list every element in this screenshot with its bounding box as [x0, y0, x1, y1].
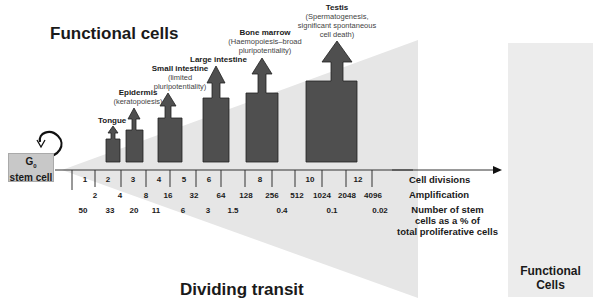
- percent-0-02: 0.02: [372, 206, 388, 215]
- cell-division-6: 6: [207, 175, 211, 184]
- amplification-4096: 4096: [364, 191, 382, 200]
- percent-0-4: 0.4: [276, 206, 287, 215]
- percent-20: 20: [130, 206, 139, 215]
- cell-division-1: 1: [83, 175, 87, 184]
- cell-division-2: 2: [106, 175, 110, 184]
- dividing-transit-title: Dividing transit: [180, 280, 304, 300]
- legend-amplification: Amplification: [409, 189, 469, 200]
- cell-division-8: 8: [258, 175, 262, 184]
- tissue-note-small-intestine-1: (limited: [140, 73, 220, 82]
- bar-bone-marrow: [246, 58, 278, 162]
- percent-6: 6: [181, 206, 185, 215]
- bar-tongue: [106, 126, 120, 162]
- arrowhead-icon: [493, 166, 502, 174]
- bar-epidermis: [126, 108, 143, 162]
- tissue-label-small-intestine: Small intestine: [140, 64, 220, 73]
- tissue-note-small-intestine-2: pluripotentiality): [140, 82, 220, 91]
- tissue-label-large-intestine: Large intestine: [190, 55, 247, 64]
- tissue-label-small-intestine-group: Small intestine (limited pluripotentiali…: [140, 64, 220, 91]
- functional-cells-box-label: Functional Cells: [508, 264, 593, 292]
- cell-division-12: 12: [354, 175, 363, 184]
- amplification-32: 32: [190, 191, 199, 200]
- amplification-256: 256: [265, 191, 278, 200]
- percent-50: 50: [79, 206, 88, 215]
- amplification-1024: 1024: [313, 191, 331, 200]
- tissue-label-testis: Testis: [287, 3, 387, 12]
- tissue-note-bone-marrow-2: pluripotentiality): [225, 46, 305, 55]
- percent-11: 11: [152, 206, 160, 215]
- amplification-16: 16: [164, 191, 173, 200]
- functional-cells-title: Functional cells: [50, 24, 178, 44]
- amplification-2: 2: [93, 191, 97, 200]
- bar-testis: [306, 41, 357, 162]
- tissue-note-epidermis: (keratopoiesis): [108, 97, 168, 106]
- stem-cell-subscript: 0: [33, 163, 36, 169]
- cell-division-10: 10: [306, 175, 315, 184]
- dividing-transit-wedge: [62, 40, 418, 298]
- tissue-note-testis-2: significant spontaneous: [287, 21, 387, 30]
- g0-stem-cell-box: G0 stem cell: [8, 153, 54, 182]
- legend-percent-group: Number of stem cells as a % of total pro…: [390, 204, 505, 237]
- tissue-label-testis-group: Testis (Spermatogenesis, significant spo…: [287, 3, 387, 39]
- percent-33: 33: [106, 206, 115, 215]
- tissue-note-testis-1: (Spermatogenesis,: [287, 12, 387, 21]
- tissue-label-tongue: Tongue: [98, 116, 126, 125]
- functional-cells-box-line-2: Cells: [508, 278, 593, 292]
- stem-cell-label: stem cell: [9, 172, 53, 183]
- amplification-2048: 2048: [338, 191, 356, 200]
- legend-percent-line-2: cells as a % of: [390, 215, 505, 226]
- legend-cell-divisions: Cell divisions: [409, 174, 470, 185]
- cell-division-5: 5: [182, 175, 186, 184]
- functional-cells-box-line-1: Functional: [508, 264, 593, 278]
- cell-division-3: 3: [131, 175, 135, 184]
- tissue-note-testis-3: cell death): [287, 30, 387, 39]
- amplification-64: 64: [217, 191, 226, 200]
- amplification-4: 4: [118, 191, 122, 200]
- amplification-8: 8: [144, 191, 148, 200]
- self-renewal-arrowhead-icon: [37, 140, 45, 147]
- legend-percent-line-1: Number of stem: [390, 204, 505, 215]
- percent-0-1: 0.1: [326, 206, 337, 215]
- amplification-128: 128: [239, 191, 252, 200]
- amplification-512: 512: [290, 191, 303, 200]
- cell-division-4: 4: [157, 175, 161, 184]
- percent-3: 3: [206, 206, 210, 215]
- functional-cells-box: [508, 43, 593, 297]
- percent-1-5: 1.5: [227, 206, 238, 215]
- legend-percent-line-3: total proliferative cells: [390, 226, 505, 237]
